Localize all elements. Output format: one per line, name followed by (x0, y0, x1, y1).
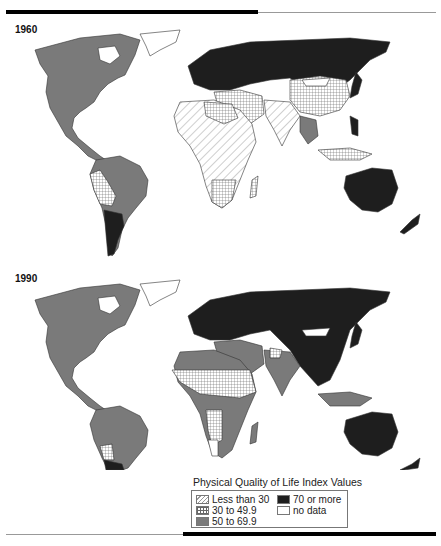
bottom-rule-thin (6, 534, 183, 535)
legend-item-lt30: Less than 30 (196, 494, 269, 505)
diagonal-hatch-swatch-icon (196, 495, 209, 504)
legend-item-70plus: 70 or more (277, 494, 341, 505)
region-afghanistan-grid (270, 348, 282, 358)
legend-item-50-69: 50 to 69.9 (196, 516, 256, 527)
region-new-zealand (400, 458, 420, 470)
region-philippines (350, 116, 358, 136)
top-rule-thick (6, 10, 258, 14)
region-north-america (35, 34, 140, 162)
region-greenland (140, 30, 180, 56)
bottom-rule-thick (183, 532, 436, 536)
world-map-1960 (0, 20, 441, 270)
legend-label: 50 to 69.9 (212, 516, 256, 527)
legend: Less than 30 30 to 49.9 50 to 69.9 70 or… (191, 490, 348, 528)
legend-label: Less than 30 (212, 494, 269, 505)
crosshatch-swatch-icon (196, 506, 209, 515)
region-greenland (140, 280, 180, 306)
legend-label: 70 or more (293, 494, 341, 505)
region-madagascar (250, 422, 258, 444)
legend-label: 30 to 49.9 (212, 505, 256, 516)
world-map-1990 (0, 270, 441, 470)
top-rule-thin (258, 12, 436, 13)
region-southern-cone (104, 210, 124, 256)
region-new-zealand (400, 214, 420, 234)
region-namibia-nodata (208, 440, 218, 456)
region-north-america (35, 284, 140, 412)
region-south-africa-grid (212, 180, 236, 208)
medium-gray-swatch-icon (196, 517, 209, 526)
dark-swatch-icon (277, 495, 290, 504)
region-sahel-grid (172, 370, 256, 398)
legend-label: no data (293, 505, 326, 516)
region-indonesia (318, 148, 372, 160)
region-australia (344, 168, 398, 212)
region-madagascar (250, 176, 258, 198)
legend-item-nodata: no data (277, 505, 326, 516)
white-swatch-icon (277, 506, 290, 515)
legend-title: Physical Quality of Life Index Values (193, 476, 362, 488)
region-australia (344, 412, 398, 456)
region-indonesia (318, 392, 372, 406)
region-south-asia (264, 100, 300, 146)
region-south-america (90, 406, 148, 470)
legend-item-30-49: 30 to 49.9 (196, 505, 256, 516)
region-southeast-asia (300, 116, 318, 144)
